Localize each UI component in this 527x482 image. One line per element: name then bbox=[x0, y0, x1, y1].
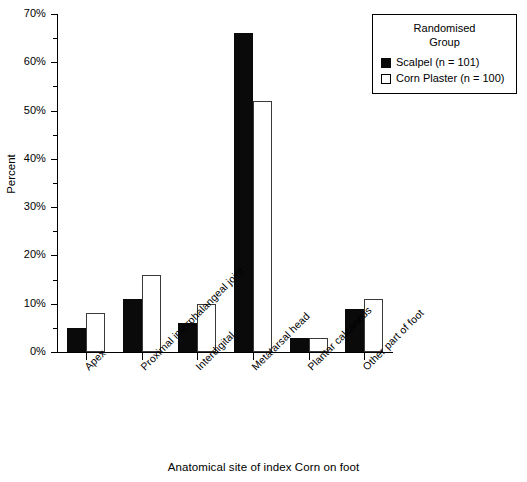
y-tick-major bbox=[51, 304, 58, 305]
y-tick-label: 20% bbox=[0, 249, 46, 260]
legend-title-line-2: Group bbox=[381, 35, 508, 49]
x-axis-title: Anatomical site of index Corn on foot bbox=[0, 461, 527, 473]
bar-corn-plaster bbox=[86, 313, 105, 352]
y-tick-label: 30% bbox=[0, 201, 46, 212]
y-tick-label: 0% bbox=[0, 346, 46, 357]
legend-title-line-1: Randomised bbox=[381, 21, 508, 35]
bar-scalpel bbox=[123, 299, 142, 352]
legend-box: Randomised Group Scalpel (n = 101) Corn … bbox=[372, 14, 517, 94]
legend-item-corn-plaster: Corn Plaster (n = 100) bbox=[381, 71, 508, 86]
y-tick-label: 50% bbox=[0, 105, 46, 116]
bar-scalpel bbox=[290, 338, 309, 352]
bar-scalpel bbox=[234, 33, 253, 352]
y-tick-major bbox=[51, 14, 58, 15]
bar-scalpel bbox=[67, 328, 86, 352]
legend-title: Randomised Group bbox=[381, 21, 508, 49]
legend-label-corn-plaster: Corn Plaster (n = 100) bbox=[396, 71, 505, 86]
x-axis-line bbox=[57, 352, 393, 353]
y-tick-major bbox=[51, 352, 58, 353]
y-tick-label: 40% bbox=[0, 153, 46, 164]
plot-area bbox=[58, 14, 392, 352]
y-axis-title: Percent bbox=[5, 114, 17, 234]
y-tick-label: 70% bbox=[0, 8, 46, 19]
legend-item-scalpel: Scalpel (n = 101) bbox=[381, 55, 508, 70]
bar-corn-plaster bbox=[142, 275, 161, 352]
y-tick-major bbox=[51, 111, 58, 112]
bar-chart-figure: Percent 0%10%20%30%40%50%60%70% ApexProx… bbox=[0, 0, 527, 482]
y-tick-major bbox=[51, 62, 58, 63]
filled-square-icon bbox=[381, 58, 391, 68]
bar-corn-plaster bbox=[253, 101, 272, 352]
y-tick-label: 60% bbox=[0, 56, 46, 67]
y-tick-label: 10% bbox=[0, 298, 46, 309]
y-tick-major bbox=[51, 159, 58, 160]
y-tick-major bbox=[51, 255, 58, 256]
hollow-square-icon bbox=[381, 74, 391, 84]
y-tick-major bbox=[51, 207, 58, 208]
legend-label-scalpel: Scalpel (n = 101) bbox=[396, 55, 479, 70]
